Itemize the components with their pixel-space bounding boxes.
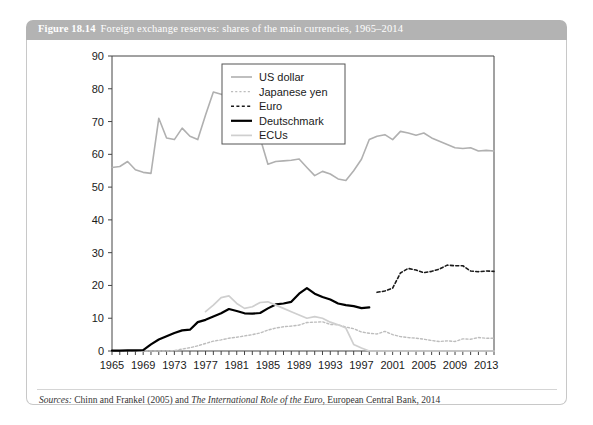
x-axis-tick-label: 2005 bbox=[412, 359, 436, 371]
chart-area: 0102030405060708090196519691973197719811… bbox=[27, 40, 568, 388]
figure-title-text: Foreign exchange reserves: shares of the… bbox=[96, 23, 404, 34]
y-axis-tick-label: 50 bbox=[92, 181, 104, 193]
x-axis-tick-label: 1969 bbox=[131, 359, 155, 371]
series-line-deutschmark bbox=[112, 288, 369, 351]
y-axis-tick-label: 30 bbox=[92, 247, 104, 259]
figure-header-bar: Figure 18.14Foreign exchange reserves: s… bbox=[26, 20, 567, 40]
x-axis-tick-label: 1965 bbox=[100, 359, 124, 371]
legend-label-euro: Euro bbox=[259, 100, 282, 112]
x-axis-tick-label: 1981 bbox=[224, 359, 248, 371]
y-axis-tick-label: 60 bbox=[92, 148, 104, 160]
x-axis-tick-label: 1985 bbox=[256, 359, 280, 371]
y-axis-tick-label: 20 bbox=[92, 279, 104, 291]
source-note: Sources: Chinn and Frankel (2005) and Th… bbox=[39, 395, 559, 405]
legend-label-deutschmark: Deutschmark bbox=[259, 115, 324, 127]
y-axis-tick-label: 90 bbox=[92, 50, 104, 62]
legend-label-ecus: ECUs bbox=[259, 129, 288, 141]
figure-number: Figure 18.14 bbox=[38, 23, 96, 34]
x-axis-tick-label: 2013 bbox=[474, 359, 498, 371]
x-axis-tick-label: 1977 bbox=[193, 359, 217, 371]
x-axis-tick-label: 1993 bbox=[318, 359, 342, 371]
y-axis-tick-label: 40 bbox=[92, 214, 104, 226]
line-chart: 0102030405060708090196519691973197719811… bbox=[27, 40, 566, 388]
source-text-2: , European Central Bank, 2014 bbox=[322, 395, 440, 405]
y-axis-tick-label: 70 bbox=[92, 116, 104, 128]
x-axis-tick-label: 1973 bbox=[162, 359, 186, 371]
source-text-1: Chinn and Frankel (2005) and bbox=[72, 395, 191, 405]
x-axis-tick-label: 2009 bbox=[443, 359, 467, 371]
series-line-euro bbox=[377, 265, 494, 292]
x-axis-tick-label: 2001 bbox=[380, 359, 404, 371]
x-axis-tick-label: 1989 bbox=[287, 359, 311, 371]
source-divider bbox=[37, 389, 557, 390]
figure-card: Figure 18.14Foreign exchange reserves: s… bbox=[26, 20, 567, 405]
legend-label-japanese-yen: Japanese yen bbox=[259, 86, 328, 98]
legend-label-us-dollar: US dollar bbox=[259, 71, 305, 83]
y-axis-tick-label: 80 bbox=[92, 83, 104, 95]
series-line-ecus bbox=[206, 296, 494, 351]
source-label: Sources: bbox=[39, 395, 72, 405]
y-axis-tick-label: 0 bbox=[98, 345, 104, 357]
source-publication-title: The International Role of the Euro bbox=[191, 395, 322, 405]
series-line-japanese-yen bbox=[112, 322, 494, 351]
y-axis-tick-label: 10 bbox=[92, 312, 104, 324]
figure-body: 0102030405060708090196519691973197719811… bbox=[26, 40, 567, 405]
figure-title: Figure 18.14Foreign exchange reserves: s… bbox=[38, 23, 403, 34]
x-axis-tick-label: 1997 bbox=[349, 359, 373, 371]
